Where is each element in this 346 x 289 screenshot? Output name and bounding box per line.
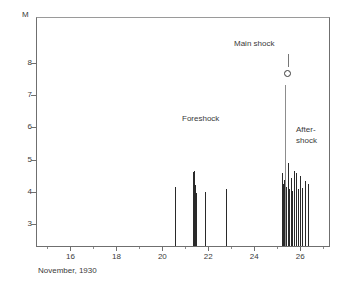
event-spike bbox=[175, 187, 176, 246]
event-spike bbox=[308, 184, 309, 246]
x-tick-label: 18 bbox=[106, 252, 126, 261]
x-tick-minor-mark bbox=[323, 247, 324, 249]
event-spike bbox=[305, 181, 306, 246]
seismicity-chart-figure: M 345678 161820222426 Foreshock Main sho… bbox=[0, 0, 346, 289]
x-tick-label: 16 bbox=[60, 252, 80, 261]
x-tick-minor-mark bbox=[231, 247, 232, 249]
event-spike bbox=[292, 191, 293, 246]
x-tick-minor-mark bbox=[47, 247, 48, 249]
event-spike bbox=[298, 189, 299, 246]
x-tick-minor-mark bbox=[139, 247, 140, 249]
x-tick-label: 20 bbox=[152, 252, 172, 261]
x-tick-label: 26 bbox=[290, 252, 310, 261]
x-tick-mark bbox=[208, 247, 209, 251]
x-tick-mark bbox=[254, 247, 255, 251]
mainshock-circle-marker bbox=[284, 70, 291, 77]
plot-area bbox=[36, 17, 330, 247]
event-spike bbox=[300, 176, 301, 246]
y-tick-label: 7 bbox=[16, 90, 32, 99]
x-tick-mark bbox=[162, 247, 163, 251]
event-spike bbox=[196, 193, 197, 246]
x-axis-title: November, 1930 bbox=[38, 266, 97, 275]
x-tick-minor-mark bbox=[93, 247, 94, 249]
event-spike bbox=[205, 192, 206, 246]
x-tick-minor-mark bbox=[185, 247, 186, 249]
event-spike bbox=[226, 189, 227, 246]
aftershock-annotation-line2: shock bbox=[296, 135, 317, 146]
y-tick-label: 4 bbox=[16, 187, 32, 196]
aftershock-annotation-line1: After- bbox=[296, 124, 317, 135]
y-tick-label: 8 bbox=[16, 58, 32, 67]
event-spike bbox=[296, 173, 297, 246]
x-tick-mark bbox=[300, 247, 301, 251]
y-axis-unit-label: M bbox=[22, 10, 29, 19]
y-tick-label: 6 bbox=[16, 122, 32, 131]
foreshock-annotation: Foreshock bbox=[182, 114, 219, 123]
mainshock-leader-line bbox=[288, 54, 289, 67]
x-tick-minor-mark bbox=[277, 247, 278, 249]
y-tick-label: 5 bbox=[16, 155, 32, 164]
mainshock-annotation: Main shock bbox=[234, 39, 274, 48]
event-spike bbox=[302, 188, 303, 246]
aftershock-annotation: After- shock bbox=[296, 124, 317, 146]
x-tick-label: 22 bbox=[198, 252, 218, 261]
y-tick-label: 3 bbox=[16, 219, 32, 228]
x-tick-mark bbox=[70, 247, 71, 251]
x-tick-label: 24 bbox=[244, 252, 264, 261]
x-tick-mark bbox=[116, 247, 117, 251]
